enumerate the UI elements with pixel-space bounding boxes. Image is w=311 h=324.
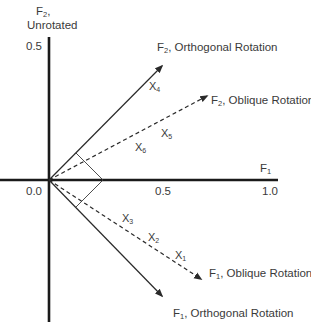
var-sub: 1 [182, 255, 186, 262]
var-sub: 4 [156, 86, 160, 93]
f2-oblique-label: F2, Oblique Rotation [211, 95, 311, 108]
y-tick-0.5: 0.5 [26, 41, 42, 53]
label-text: , Orthogonal Rotation [168, 41, 277, 53]
label-text: , Oblique Rotation [222, 94, 311, 106]
x-axis-label-main: F [260, 162, 267, 174]
f2-orthogonal-label: F2, Orthogonal Rotation [157, 42, 278, 55]
y-axis-label-line2: Unrotated [27, 20, 78, 32]
f1-oblique-vector [49, 180, 201, 279]
var-sub: 5 [168, 133, 172, 140]
label-text: , Oblique Rotation [220, 267, 311, 279]
label-main: F [209, 267, 216, 279]
label-main: F [157, 41, 164, 53]
variable-x2: X2 [148, 232, 159, 244]
variable-x4: X4 [149, 81, 160, 93]
x-axis-label: F1 [260, 163, 271, 176]
x-axis-label-sub: 1 [267, 167, 271, 176]
label-text: , Orthogonal Rotation [184, 307, 293, 319]
f2-oblique-vector [49, 96, 207, 180]
f1-orthogonal-vector [49, 180, 162, 296]
x-tick-1.0: 1.0 [262, 186, 278, 198]
y-axis-label: F2, [36, 6, 50, 19]
label-main: F [173, 307, 180, 319]
label-main: F [211, 94, 218, 106]
variable-x5: X5 [161, 128, 172, 140]
variable-x3: X3 [122, 213, 133, 225]
y-axis-label-suffix: , [47, 5, 50, 17]
f1-oblique-label: F1, Oblique Rotation [209, 268, 311, 281]
x-tick-0.5: 0.5 [155, 186, 171, 198]
f1-orthogonal-label: F1, Orthogonal Rotation [173, 308, 294, 321]
var-sub: 3 [129, 218, 133, 225]
var-sub: 6 [142, 147, 146, 154]
variable-x1: X1 [175, 250, 186, 262]
x-tick-origin: 0.0 [26, 186, 42, 198]
var-sub: 2 [155, 237, 159, 244]
variable-x6: X6 [135, 142, 146, 154]
f2-orthogonal-vector [49, 66, 162, 180]
y-axis-label-main: F [36, 5, 43, 17]
